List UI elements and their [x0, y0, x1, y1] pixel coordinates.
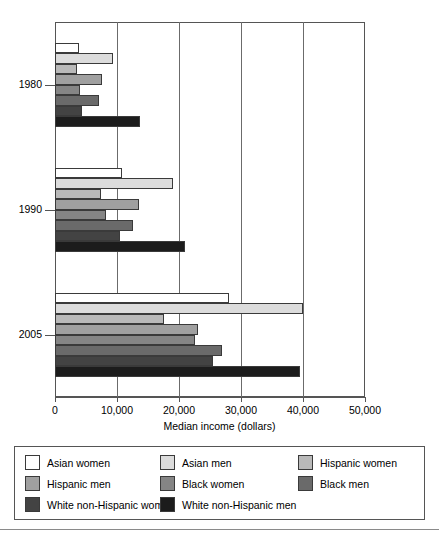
bar — [55, 303, 303, 314]
legend-item[interactable]: Asian women — [25, 455, 110, 470]
x-axis-label: Median income (dollars) — [0, 420, 439, 432]
x-tick-10000 — [117, 397, 118, 402]
legend: Asian womenAsian menHispanic womenHispan… — [14, 446, 425, 520]
x-axis-line — [55, 397, 365, 398]
legend-item[interactable]: Hispanic men — [25, 476, 111, 491]
bar-group-1980 — [55, 43, 365, 127]
y-tick-mark-2005 — [45, 335, 55, 336]
bar — [55, 116, 140, 127]
bar — [55, 189, 101, 200]
y-tick-label-2005: 2005 — [0, 328, 42, 340]
chart-container: 198019902005 010,00020,00030,00040,00050… — [0, 0, 439, 534]
legend-label: Black men — [320, 478, 369, 490]
legend-item[interactable]: Hispanic women — [298, 455, 397, 470]
legend-label: Asian women — [47, 457, 110, 469]
legend-swatch-icon — [25, 455, 40, 470]
bar-group-2005 — [55, 293, 365, 377]
y-tick-label-1980: 1980 — [0, 78, 42, 90]
bar — [55, 85, 80, 96]
bar — [55, 324, 198, 335]
bar — [55, 199, 139, 210]
bar — [55, 345, 222, 356]
y-tick-label-1990: 1990 — [0, 203, 42, 215]
bar — [55, 314, 164, 325]
bar — [55, 366, 300, 377]
bar — [55, 241, 185, 252]
x-tick-30000 — [241, 397, 242, 402]
bottom-divider — [0, 529, 439, 530]
x-tick-label-20000: 20,000 — [149, 404, 209, 416]
bar — [55, 356, 213, 367]
legend-label: Hispanic men — [47, 478, 111, 490]
x-tick-label-30000: 30,000 — [211, 404, 271, 416]
bar — [55, 210, 106, 221]
bar — [55, 74, 102, 85]
x-tick-50000 — [365, 397, 366, 402]
x-tick-20000 — [179, 397, 180, 402]
y-tick-mark-1990 — [45, 210, 55, 211]
y-tick-mark-1980 — [45, 85, 55, 86]
bar — [55, 53, 113, 64]
bar — [55, 168, 122, 179]
bar — [55, 220, 133, 231]
bar — [55, 335, 195, 346]
bar — [55, 106, 82, 117]
legend-swatch-icon — [160, 497, 175, 512]
x-tick-40000 — [303, 397, 304, 402]
bar — [55, 231, 120, 242]
x-tick-0 — [55, 397, 56, 402]
legend-swatch-icon — [160, 476, 175, 491]
bar — [55, 64, 77, 75]
legend-label: Hispanic women — [320, 457, 397, 469]
legend-item[interactable]: Black men — [298, 476, 369, 491]
legend-label: White non-Hispanic women — [47, 499, 175, 511]
bar — [55, 95, 99, 106]
plot-area — [55, 22, 365, 397]
legend-swatch-icon — [25, 497, 40, 512]
x-tick-label-0: 0 — [25, 404, 85, 416]
legend-swatch-icon — [160, 455, 175, 470]
x-tick-label-50000: 50,000 — [335, 404, 395, 416]
legend-label: Asian men — [182, 457, 232, 469]
legend-swatch-icon — [298, 476, 313, 491]
bar-group-1990 — [55, 168, 365, 252]
legend-item[interactable]: Black women — [160, 476, 244, 491]
bar — [55, 178, 173, 189]
legend-label: Black women — [182, 478, 244, 490]
bar — [55, 43, 79, 54]
legend-item[interactable]: Asian men — [160, 455, 232, 470]
legend-label: White non-Hispanic men — [182, 499, 296, 511]
legend-swatch-icon — [25, 476, 40, 491]
legend-item[interactable]: White non-Hispanic women — [25, 497, 175, 512]
legend-swatch-icon — [298, 455, 313, 470]
legend-item[interactable]: White non-Hispanic men — [160, 497, 296, 512]
x-tick-label-40000: 40,000 — [273, 404, 333, 416]
bar — [55, 293, 229, 304]
x-tick-label-10000: 10,000 — [87, 404, 147, 416]
